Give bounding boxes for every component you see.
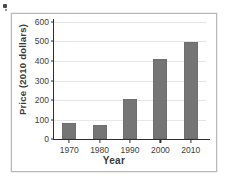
x-tick-mark (190, 139, 191, 143)
y-axis-title: Price (2010 dollars) (17, 15, 28, 125)
y-tick-label: 300 (35, 76, 49, 86)
x-tick-mark (99, 139, 100, 143)
figure-frame: Price (2010 dollars) 0100200300400500600… (11, 13, 217, 172)
x-tick-label: 1990 (121, 145, 140, 155)
y-tick-label: 200 (35, 95, 49, 105)
bar (93, 125, 107, 139)
bar (62, 123, 76, 139)
scan-artifact-mark (3, 4, 7, 8)
y-tick-label: 400 (35, 56, 49, 66)
x-axis-title: Year (12, 155, 216, 166)
plot-area: 0100200300400500600 19701980199020002010 (54, 22, 206, 139)
y-tick-label: 0 (44, 134, 49, 144)
plot-wrapper: Price (2010 dollars) 0100200300400500600… (12, 14, 216, 171)
x-tick-mark (160, 139, 161, 143)
x-tick-label: 2000 (151, 145, 170, 155)
bar (184, 42, 198, 139)
y-tick-label: 600 (35, 17, 49, 27)
x-tick-label: 1970 (60, 145, 79, 155)
chart-page: Price (2010 dollars) 0100200300400500600… (0, 0, 226, 184)
y-tick-label: 100 (35, 115, 49, 125)
bar-series (54, 22, 206, 139)
x-tick-mark (69, 139, 70, 143)
x-tick-mark (129, 139, 130, 143)
x-tick-label: 1980 (90, 145, 109, 155)
x-tick-label: 2010 (181, 145, 200, 155)
bar (153, 59, 167, 139)
bar (123, 99, 137, 139)
y-tick-label: 500 (35, 36, 49, 46)
